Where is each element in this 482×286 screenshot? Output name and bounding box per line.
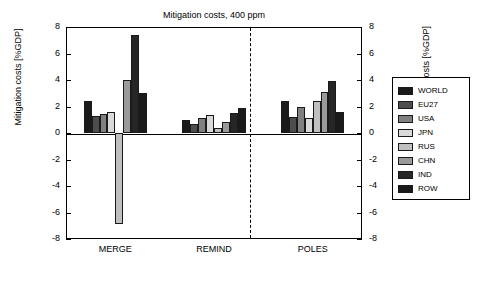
bar	[115, 133, 123, 224]
legend-swatch	[398, 87, 413, 95]
y-tick-mark-left	[66, 213, 71, 214]
bar	[230, 113, 238, 133]
y-tick-mark-left	[66, 133, 71, 134]
bar	[281, 101, 289, 133]
y-tick-mark-right	[357, 107, 362, 108]
chart-title: Mitigation costs, 400 ppm	[66, 10, 362, 20]
y-tick-label-right: 2	[369, 101, 393, 111]
bar	[336, 112, 344, 133]
legend-label: JPN	[418, 129, 433, 137]
x-tick-label: POLES	[273, 244, 353, 254]
y-tick-mark-left	[66, 186, 71, 187]
legend-label: USA	[418, 115, 434, 123]
y-tick-label-left: 2	[36, 101, 60, 111]
y-tick-label-left: -6	[36, 207, 60, 217]
y-tick-label-right: 4	[369, 74, 393, 84]
legend-swatch	[398, 115, 413, 123]
legend: WORLDEU27USAJPNRUSCHNINDROW	[392, 77, 470, 200]
legend-swatch	[398, 157, 413, 165]
bar	[123, 80, 131, 133]
legend-item: ROW	[398, 182, 438, 195]
y-tick-label-right: -6	[369, 207, 393, 217]
legend-swatch	[398, 101, 413, 109]
y-tick-label-left: -8	[36, 233, 60, 243]
legend-swatch	[398, 129, 413, 137]
legend-item: EU27	[398, 98, 438, 111]
y-tick-label-right: 8	[369, 21, 393, 31]
y-tick-label-left: 0	[36, 127, 60, 137]
zero-line	[67, 134, 361, 135]
y-tick-label-left: 8	[36, 21, 60, 31]
y-tick-mark-left	[66, 160, 71, 161]
y-tick-label-left: -2	[36, 154, 60, 164]
legend-item: JPN	[398, 126, 433, 139]
bar	[206, 115, 214, 133]
bar	[289, 117, 297, 133]
bar	[198, 118, 206, 133]
bar	[131, 35, 139, 133]
legend-label: IND	[418, 171, 432, 179]
y-tick-mark-right	[357, 133, 362, 134]
legend-label: RUS	[418, 143, 435, 151]
y-tick-mark-right	[357, 80, 362, 81]
bar	[238, 108, 246, 133]
x-tick-label: MERGE	[75, 244, 155, 254]
y-tick-mark-right	[357, 54, 362, 55]
y-tick-label-right: -8	[369, 233, 393, 243]
y-tick-label-right: -2	[369, 154, 393, 164]
y-tick-label-left: 6	[36, 48, 60, 58]
y-tick-mark-left	[66, 27, 71, 28]
bar	[100, 114, 108, 133]
legend-item: USA	[398, 112, 434, 125]
y-tick-label-right: 0	[369, 127, 393, 137]
bar	[321, 92, 329, 133]
bar	[182, 120, 190, 133]
y-tick-mark-right	[357, 239, 362, 240]
group-divider	[250, 28, 251, 238]
y-tick-mark-right	[357, 186, 362, 187]
y-axis-label-left: Mitigation costs [%GDP]	[13, 0, 23, 157]
legend-swatch	[398, 171, 413, 179]
legend-label: CHN	[418, 157, 435, 165]
legend-item: CHN	[398, 154, 435, 167]
legend-label: ROW	[418, 185, 438, 193]
y-tick-mark-right	[357, 27, 362, 28]
plot-area	[66, 27, 362, 239]
legend-swatch	[398, 185, 413, 193]
legend-item: IND	[398, 168, 432, 181]
bar	[84, 101, 92, 133]
y-tick-mark-left	[66, 80, 71, 81]
legend-swatch	[398, 143, 413, 151]
legend-item: RUS	[398, 140, 435, 153]
bar	[107, 112, 115, 133]
y-tick-mark-right	[357, 160, 362, 161]
y-tick-label-right: -4	[369, 180, 393, 190]
legend-label: EU27	[418, 101, 438, 109]
x-tick-label: REMIND	[174, 244, 254, 254]
bar	[305, 118, 313, 133]
bar	[214, 128, 222, 133]
bar	[222, 122, 230, 133]
y-tick-label-left: -4	[36, 180, 60, 190]
y-tick-label-right: 6	[369, 48, 393, 58]
y-tick-mark-left	[66, 239, 71, 240]
legend-item: WORLD	[398, 84, 448, 97]
y-tick-mark-left	[66, 107, 71, 108]
bar	[190, 124, 198, 133]
y-tick-mark-left	[66, 54, 71, 55]
legend-label: WORLD	[418, 87, 448, 95]
bar	[297, 107, 305, 134]
bar	[328, 81, 336, 133]
bar	[313, 101, 321, 133]
chart-root: Mitigation costs, 400 ppm Mitigation cos…	[0, 0, 482, 286]
bar	[139, 93, 147, 133]
y-tick-mark-right	[357, 213, 362, 214]
y-tick-label-left: 4	[36, 74, 60, 84]
bar	[92, 116, 100, 133]
